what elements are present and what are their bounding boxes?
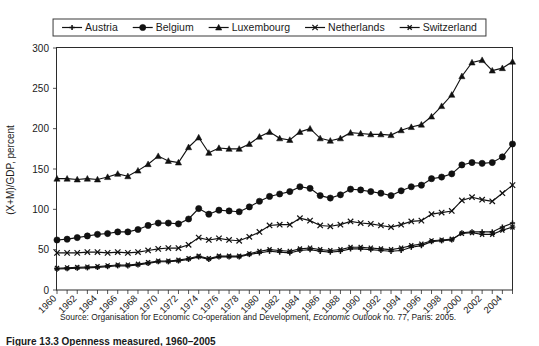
y-axis-label-text: (X+M)/GDP, percent (5, 125, 16, 215)
legend-label-belgium: Belgium (156, 21, 194, 33)
y-tick-label-250: 250 (32, 83, 49, 94)
figure-caption: Figure 13.3 Openness measured, 1960–2005 (6, 336, 216, 346)
y-tick-label-50: 50 (38, 244, 50, 255)
y-axis-label: (X+M)/GDP, percent (5, 125, 16, 215)
figure-container: AustriaBelgiumLuxembourgNetherlandsSwitz… (0, 0, 539, 346)
legend-label-switzerland: Switzerland (423, 21, 477, 33)
y-tick-label-100: 100 (32, 204, 49, 215)
legend-label-austria: Austria (85, 21, 118, 33)
legend-label-netherlands: Netherlands (328, 21, 385, 33)
openness-line-chart: AustriaBelgiumLuxembourgNetherlandsSwitz… (0, 0, 539, 346)
y-tick-label-200: 200 (32, 123, 49, 134)
plot-area-frame (57, 48, 513, 291)
source-note-text: Source: Organisation for Economic Co-ope… (60, 312, 456, 322)
chart-legend: AustriaBelgiumLuxembourgNetherlandsSwitz… (53, 19, 486, 36)
y-tick-label-300: 300 (32, 43, 49, 54)
source-note: Source: Organisation for Economic Co-ope… (60, 312, 456, 322)
y-tick-label-150: 150 (32, 164, 49, 175)
figure-caption-text: Figure 13.3 Openness measured, 1960–2005 (6, 336, 216, 346)
legend-label-luxembourg: Luxembourg (232, 21, 291, 33)
